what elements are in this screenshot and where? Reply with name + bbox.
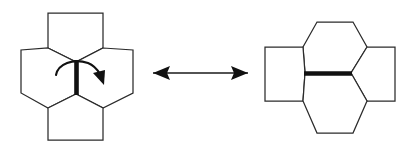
diagram-canvas xyxy=(0,0,409,148)
equivalence-arrow-group xyxy=(153,66,248,80)
left-tiling-panel xyxy=(21,13,133,140)
right-tiling-panel xyxy=(265,22,395,133)
right-left-pentagon-face xyxy=(265,47,305,101)
stone-wales-transformation-figure xyxy=(0,0,409,148)
